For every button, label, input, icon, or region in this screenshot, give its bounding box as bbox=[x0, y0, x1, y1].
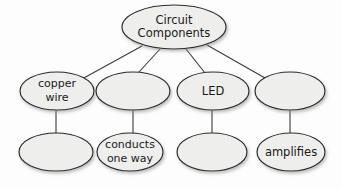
concept-map-diagram: CircuitComponentscopperwireLEDconductson… bbox=[0, 0, 342, 188]
node-shape-mid-2[interactable] bbox=[96, 72, 170, 110]
node-shape-leaf-1[interactable] bbox=[19, 133, 93, 171]
node-mid-3[interactable]: LED bbox=[177, 72, 249, 110]
node-leaf-1[interactable] bbox=[19, 133, 93, 171]
node-leaf-3[interactable] bbox=[177, 133, 247, 171]
node-shape-mid-4[interactable] bbox=[255, 72, 325, 110]
connector-line-root-to-mid-2 bbox=[139, 49, 160, 72]
node-label-mid-1-line1: copper bbox=[38, 77, 77, 90]
node-mid-1[interactable]: copperwire bbox=[20, 72, 94, 110]
node-root[interactable]: CircuitComponents bbox=[122, 5, 226, 49]
node-label-root-line2: Components bbox=[138, 26, 211, 40]
node-label-leaf-4-line1: amplifies bbox=[265, 145, 317, 159]
node-mid-2[interactable] bbox=[96, 72, 170, 110]
node-label-mid-1-line2: wire bbox=[45, 91, 68, 104]
node-leaf-4[interactable]: amplifies bbox=[257, 133, 325, 171]
connector-line-root-to-mid-3 bbox=[186, 49, 205, 73]
node-shape-leaf-3[interactable] bbox=[177, 133, 247, 171]
node-label-mid-3-line1: LED bbox=[202, 84, 225, 98]
node-leaf-2[interactable]: conductsone way bbox=[97, 133, 163, 171]
node-label-leaf-2-line2: one way bbox=[107, 152, 154, 165]
node-mid-4[interactable] bbox=[255, 72, 325, 110]
node-label-leaf-2-line1: conducts bbox=[105, 138, 155, 151]
node-label-root-line1: Circuit bbox=[155, 13, 193, 27]
node-layer: CircuitComponentscopperwireLEDconductson… bbox=[19, 5, 325, 171]
diagram-canvas: CircuitComponentscopperwireLEDconductson… bbox=[0, 0, 342, 188]
